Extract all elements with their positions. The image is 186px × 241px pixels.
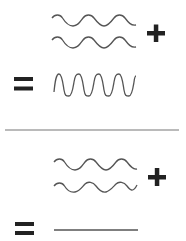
plus-icon <box>147 25 165 43</box>
wave-b-top <box>52 37 136 48</box>
equals-icon <box>14 77 33 91</box>
wave-a-bottom <box>54 159 137 170</box>
sum-wave <box>54 74 136 96</box>
wave-b-bottom <box>54 182 137 192</box>
destructive-panel <box>15 159 166 235</box>
equals-icon <box>15 222 34 235</box>
wave-a-top <box>52 15 136 26</box>
interference-diagram <box>0 0 186 241</box>
plus-icon <box>148 168 166 186</box>
constructive-panel <box>14 15 165 96</box>
